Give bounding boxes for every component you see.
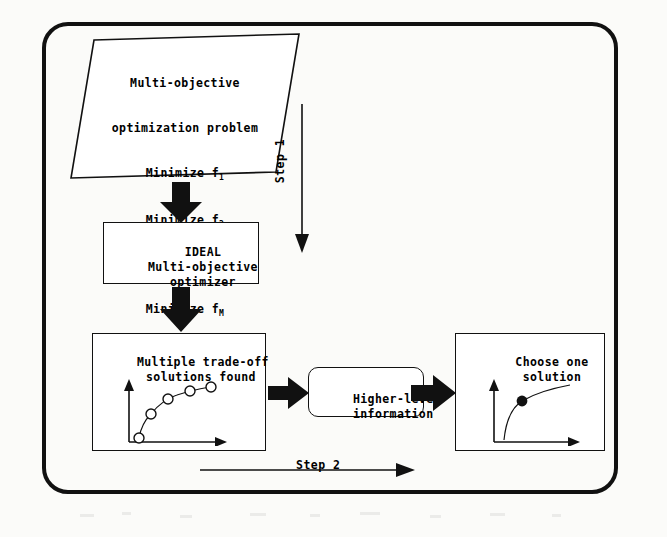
- step1-label: Step 1: [273, 139, 287, 184]
- pareto-front-plot: [111, 376, 253, 446]
- objective-1-subscript: 1: [219, 173, 224, 182]
- step1-down-arrow-icon: [292, 104, 312, 254]
- right-block-arrow-icon: [268, 376, 310, 410]
- step1-annotation: Step 1: [292, 104, 312, 258]
- diagram-canvas: Multi-objective optimization problem Min…: [0, 0, 667, 537]
- optimizer-line-1: IDEAL: [185, 245, 222, 259]
- y-axis-arrowhead: [489, 379, 499, 391]
- pareto-point: [163, 394, 173, 404]
- step2-label: Step 2: [296, 458, 341, 472]
- pareto-point: [185, 386, 195, 396]
- tradeoff-solutions-node: Multiple trade-off solutions found: [92, 333, 266, 451]
- objective-m-subscript: M: [219, 309, 224, 318]
- x-axis-arrowhead: [568, 437, 580, 446]
- choose-solution-node: Choose one solution: [455, 333, 605, 451]
- pareto-point: [146, 409, 156, 419]
- objective-1-text: Minimize f: [146, 166, 219, 180]
- problem-line-2: optimization problem: [70, 121, 300, 136]
- objective-1: Minimize f1: [70, 166, 300, 184]
- right-block-arrow-icon: [411, 374, 457, 412]
- step2-annotation: Step 2: [200, 461, 418, 483]
- pareto-point: [134, 433, 144, 443]
- higher-level-information-node: Higher-level information: [308, 367, 424, 417]
- scan-noise: [60, 508, 620, 524]
- x-axis-arrowhead: [215, 437, 227, 446]
- arrow-information-to-choose: [411, 374, 457, 416]
- pareto-point: [206, 382, 216, 392]
- chosen-solution-plot: [470, 376, 596, 446]
- ideal-optimizer-node: IDEAL Multi-objective optimizer: [103, 222, 259, 284]
- problem-statement-node: Multi-objective optimization problem Min…: [70, 32, 300, 180]
- tradeoff-line-1: Multiple trade-off: [137, 355, 269, 369]
- down-block-arrow-icon: [157, 287, 205, 333]
- optimizer-line-2: Multi-objective: [148, 260, 258, 274]
- choose-line-1: Choose one: [515, 355, 588, 369]
- information-text: Higher-level information: [309, 377, 423, 437]
- arrow-tradeoff-to-information: [268, 376, 310, 414]
- selected-solution-point: [517, 396, 528, 407]
- down-block-arrow-icon: [157, 182, 205, 224]
- y-axis-arrowhead: [124, 379, 134, 391]
- problem-line-1: Multi-objective: [70, 76, 300, 91]
- arrow-optimizer-to-tradeoff: [157, 287, 205, 337]
